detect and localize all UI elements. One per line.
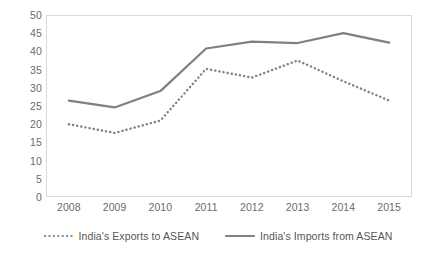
series-layer: [46, 15, 412, 197]
legend-item-exports: India's Exports to ASEAN: [44, 230, 200, 242]
x-tick-label: 2010: [148, 201, 172, 213]
y-tick-label: 5: [36, 173, 42, 185]
legend-swatch-solid: [225, 231, 255, 241]
x-tick-label: 2013: [286, 201, 310, 213]
legend-label-imports: India's Imports from ASEAN: [260, 230, 392, 242]
y-tick-label: 10: [30, 155, 42, 167]
y-tick-label: 15: [30, 136, 42, 148]
legend-swatch-dotted: [44, 231, 74, 241]
y-tick-label: 20: [30, 118, 42, 130]
x-tick-label: 2012: [240, 201, 264, 213]
y-axis: 05101520253035404550: [0, 15, 42, 197]
y-tick-label: 25: [30, 100, 42, 112]
x-axis: 20082009201020112012201320142015: [46, 201, 412, 217]
y-tick-label: 35: [30, 64, 42, 76]
y-tick-label: 0: [36, 191, 42, 203]
x-tick-label: 2015: [377, 201, 401, 213]
y-tick-label: 40: [30, 45, 42, 57]
x-tick-label: 2011: [195, 201, 218, 213]
x-tick-label: 2008: [57, 201, 81, 213]
y-tick-label: 45: [30, 27, 42, 39]
y-tick-label: 30: [30, 82, 42, 94]
x-tick-label: 2014: [331, 201, 355, 213]
series-line: [69, 61, 389, 133]
y-tick-label: 50: [30, 9, 42, 21]
chart-legend: India's Exports to ASEAN India's Imports…: [0, 226, 436, 246]
legend-item-imports: India's Imports from ASEAN: [225, 230, 392, 242]
legend-label-exports: India's Exports to ASEAN: [79, 230, 200, 242]
line-chart: 05101520253035404550 2008200920102011201…: [0, 0, 436, 253]
series-line: [69, 33, 389, 107]
x-tick-label: 2009: [103, 201, 127, 213]
